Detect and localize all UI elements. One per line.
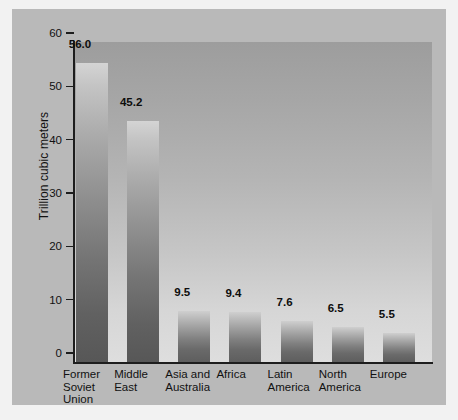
- chart-panel: 0102030405060 Trillion cubic meters 56.0…: [12, 9, 446, 405]
- x-axis-category-labels: Former Soviet UnionMiddle EastAsia and A…: [12, 9, 446, 405]
- chart-figure: 0102030405060 Trillion cubic meters 56.0…: [0, 0, 458, 420]
- x-axis-category-label: Europe: [370, 368, 429, 381]
